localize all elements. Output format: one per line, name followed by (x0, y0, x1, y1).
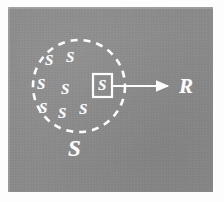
symbol-s-1: S (45, 53, 53, 68)
diagram-overlay (0, 0, 224, 202)
symbol-s-boxed: S (98, 78, 106, 93)
symbol-s-7: S (79, 102, 87, 117)
symbol-s-4: S (61, 82, 69, 97)
figure-root: S S S S S S S S R S (0, 0, 224, 202)
symbol-s-2: S (66, 50, 74, 65)
symbol-s-5: S (39, 101, 47, 116)
radius-label: R (179, 76, 193, 97)
symbol-s-3: S (37, 77, 45, 92)
system-label: S (68, 137, 81, 160)
symbol-s-6: S (58, 106, 66, 121)
